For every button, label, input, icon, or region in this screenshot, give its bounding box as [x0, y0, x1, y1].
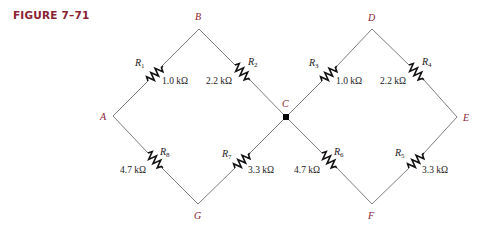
- resistor-label-r6: R6: [333, 146, 344, 159]
- wire-a-r8: [113, 116, 148, 153]
- wire-g-r7: [198, 168, 235, 204]
- wire-d-r4: [372, 29, 409, 65]
- resistor-label-r2: R2: [247, 56, 258, 69]
- wire-r1-b: [162, 29, 199, 66]
- node-label-g: G: [194, 210, 201, 221]
- resistor-value-r7: 3.3 kΩ: [248, 165, 274, 175]
- wire-a-r1: [113, 81, 148, 116]
- junction-dot-c: [283, 114, 289, 120]
- wire-c-r3: [286, 81, 322, 117]
- resistor-label-r5: R5: [394, 147, 405, 160]
- resistor-value-r2: 2.2 kΩ: [206, 76, 232, 86]
- wire-r6-f: [337, 168, 372, 204]
- wire-r8-g: [162, 168, 198, 204]
- wire-c-r6: [286, 117, 322, 153]
- figure-canvas: FIGURE 7–71: [0, 0, 493, 227]
- resistor-value-r3: 1.0 kΩ: [336, 76, 362, 86]
- wire-r7-c: [250, 117, 286, 153]
- node-label-a: A: [99, 111, 107, 122]
- resistor-value-r8: 4.7 kΩ: [120, 165, 146, 175]
- resistor-value-r6: 4.7 kΩ: [294, 165, 320, 175]
- resistor-value-r5: 3.3 kΩ: [422, 165, 448, 175]
- resistor-value-r4: 2.2 kΩ: [380, 76, 406, 86]
- resistor-label-r4: R4: [421, 56, 432, 69]
- wire-r4-e: [424, 80, 457, 117]
- resistor-label-r8: R8: [159, 146, 170, 159]
- node-label-e: E: [462, 112, 469, 123]
- resistor-label-r1: R1: [134, 57, 145, 70]
- node-label-c: C: [282, 98, 289, 109]
- wire-b-r2: [199, 29, 235, 65]
- wire-r5-f: [372, 168, 409, 204]
- node-label-b: B: [195, 11, 201, 22]
- wire-r3-d: [337, 29, 372, 66]
- wire-e-r5: [424, 117, 457, 153]
- resistor-label-r7: R7: [221, 148, 232, 161]
- resistor-value-r1: 1.0 kΩ: [162, 76, 188, 86]
- node-label-f: F: [367, 210, 375, 221]
- circuit-diagram: A B C D E F G R1 R2 R3 R4 R5 R6 R7 R8 1.…: [0, 0, 493, 227]
- resistor-label-r3: R3: [308, 57, 319, 70]
- node-label-d: D: [367, 12, 376, 23]
- wire-r2-c: [250, 80, 286, 117]
